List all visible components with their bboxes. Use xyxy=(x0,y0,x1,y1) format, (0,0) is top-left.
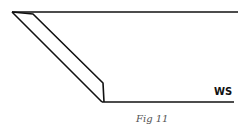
diagram-drawing xyxy=(0,0,247,136)
outer-slope-line xyxy=(12,12,102,102)
figure-caption: Fig 11 xyxy=(136,113,168,124)
ws-label: WS xyxy=(214,86,232,97)
figure: WS Fig 11 xyxy=(0,0,247,136)
